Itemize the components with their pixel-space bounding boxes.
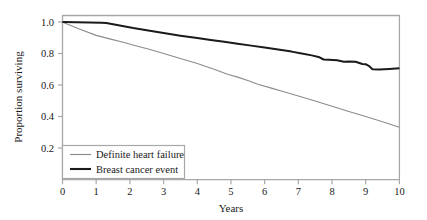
survival-curve-figure: 012345678910 0.20.40.60.81.0 Years Propo… [0, 0, 427, 220]
x-tick-label-7: 7 [296, 186, 301, 197]
y-tick-label-1.0: 1.0 [41, 17, 54, 28]
plot-svg: 012345678910 0.20.40.60.81.0 Years Propo… [0, 0, 427, 220]
x-tick-label-9: 9 [363, 186, 368, 197]
x-tick-label-6: 6 [262, 186, 267, 197]
x-tick-label-2: 2 [127, 186, 132, 197]
x-axis-tick-labels: 012345678910 [60, 186, 405, 197]
x-tick-label-10: 10 [394, 186, 405, 197]
y-tick-label-0.2: 0.2 [41, 143, 54, 154]
legend-label-breast-cancer-event: Breast cancer event [96, 164, 178, 175]
y-tick-label-0.8: 0.8 [41, 48, 54, 59]
y-axis-tick-labels: 0.20.40.60.81.0 [41, 17, 55, 154]
x-tick-label-1: 1 [94, 186, 99, 197]
x-tick-label-4: 4 [195, 186, 201, 197]
series-line-breast-cancer-event [63, 22, 400, 70]
y-tick-label-0.4: 0.4 [41, 111, 55, 122]
x-tick-label-3: 3 [161, 186, 166, 197]
x-axis-title: Years [219, 202, 244, 214]
x-axis-ticks [63, 180, 400, 185]
legend-label-definite-heart-failure: Definite heart failure [96, 149, 184, 160]
y-axis-ticks [58, 22, 63, 148]
y-tick-label-0.6: 0.6 [41, 80, 54, 91]
data-series-layer [63, 22, 400, 127]
series-line-definite-heart-failure [63, 22, 400, 127]
x-tick-label-0: 0 [60, 186, 65, 197]
x-tick-label-5: 5 [228, 186, 233, 197]
y-axis-title: Proportion surviving [12, 51, 24, 143]
legend: Definite heart failure Breast cancer eve… [63, 146, 185, 179]
x-tick-label-8: 8 [329, 186, 334, 197]
